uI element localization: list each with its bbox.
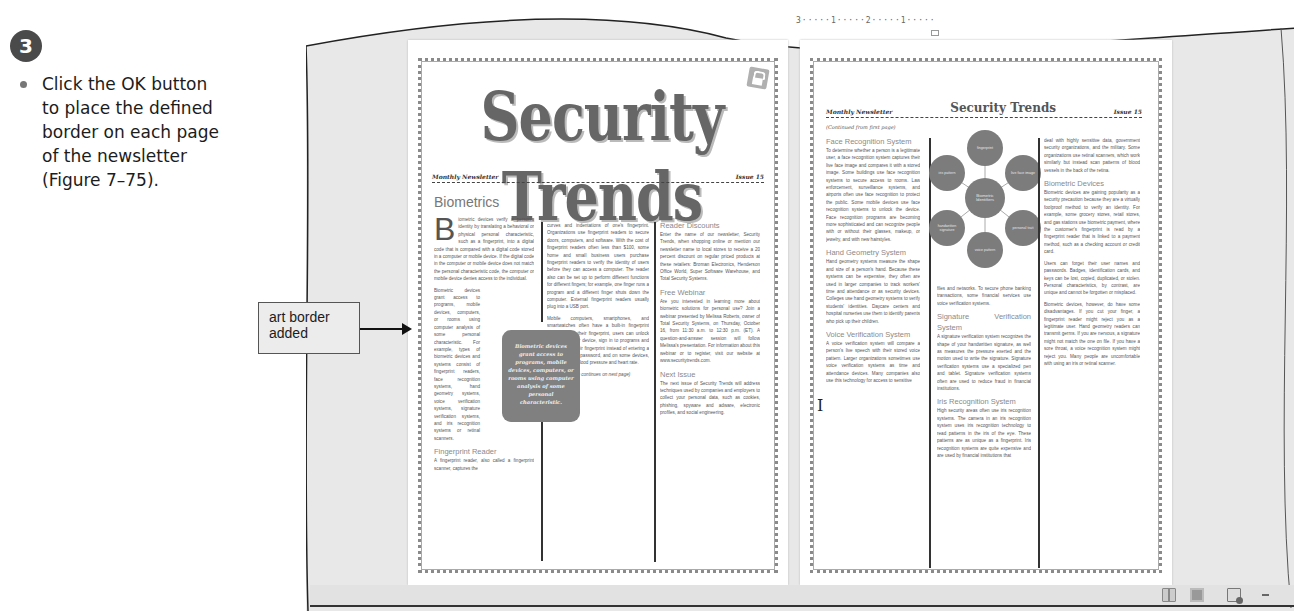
page2-header-bar: Monthly Newsletter Security Trends Issue… (826, 101, 1142, 118)
horizontal-ruler[interactable]: 3·····1·····2·····1····· (796, 16, 936, 25)
continued-note: (Continued from first page) (826, 124, 896, 130)
callout-arrow (360, 328, 410, 330)
bullet-icon (20, 81, 27, 88)
page2-column-1: Face Recognition System To determine whe… (826, 132, 920, 577)
web-layout-icon[interactable] (1227, 588, 1241, 602)
newsletter-label: Monthly Newsletter (826, 108, 892, 115)
heading-voice-verification: Voice Verification System (826, 329, 920, 340)
col1-paragraph: Hand geometry systems measure the shape … (826, 258, 920, 325)
col1-paragraph: A voice verification system will compare… (826, 340, 920, 384)
step-number-badge: 3 (10, 30, 42, 62)
col3-paragraph: Biometric devices, however, do have some… (1044, 301, 1140, 368)
col1-paragraph: To determine whether a person is a legit… (826, 147, 920, 243)
col3-paragraph: Biometric devices are gaining popularity… (1044, 189, 1140, 256)
text-cursor-icon: I (817, 396, 823, 415)
col1-paragraph: A fingerprint reader, also called a fing… (434, 457, 534, 472)
status-bar (310, 585, 1294, 607)
page2-column-2: files and networks. To secure phone bank… (937, 285, 1031, 575)
col2-paragraph: A signature verification system recogniz… (937, 333, 1031, 392)
smartart-node[interactable]: iris pattern (929, 155, 965, 191)
newsletter-label: Monthly Newsletter (432, 173, 498, 180)
col2-paragraph: curves and indentations of one's fingerp… (547, 222, 649, 311)
col3-paragraph: Users can forget their user names and pa… (1044, 260, 1140, 297)
column-rule (541, 411, 543, 561)
smartart-node[interactable]: voice pattern (967, 232, 1003, 268)
smartart-center-node[interactable]: Biometric Identifiers (965, 178, 1005, 218)
page2-column-3: deal with highly sensitive data, governm… (1044, 137, 1140, 457)
heading-reader-discounts: Reader Discounts (660, 220, 760, 231)
column-rule (929, 138, 931, 568)
issue-label: Issue 15 (1114, 108, 1142, 115)
heading-signature-verification: Signature Verification System (937, 311, 1031, 333)
column-rule (541, 222, 543, 322)
heading-next-issue: Next Issue (660, 369, 760, 380)
ruler-indent-marker[interactable] (931, 30, 939, 36)
header-title: Security Trends (950, 101, 1056, 115)
col3-paragraph: The next issue of Security Trends will a… (660, 380, 760, 417)
read-mode-icon[interactable] (1162, 588, 1176, 602)
col3-paragraph: Are you interested in learning more abou… (660, 298, 760, 365)
callout-art-border-added: art border added (258, 302, 360, 354)
smartart-node[interactable]: fingerprint (967, 130, 1003, 166)
heading-fingerprint-reader: Fingerprint Reader (434, 446, 534, 457)
heading-biometric-devices: Biometric Devices (1044, 178, 1140, 189)
instruction-text-block: Click the OK button to place the defined… (20, 72, 220, 192)
issue-label: Issue 15 (736, 173, 764, 180)
heading-hand-geometry: Hand Geometry System (826, 247, 920, 258)
smartart-graphic[interactable]: fingerprint iris pattern live face image… (933, 128, 1037, 268)
column-rule (1038, 138, 1040, 568)
print-layout-icon[interactable] (1190, 588, 1204, 602)
lock-icon (746, 66, 769, 89)
page1-issue-bar: Monthly Newsletter Issue 15 (432, 173, 764, 183)
col3-paragraph: deal with highly sensitive data, governm… (1044, 137, 1140, 174)
smartart-node[interactable]: live face image (1005, 155, 1041, 191)
col2-paragraph: High security areas often use iris recog… (937, 407, 1031, 459)
heading-face-recognition: Face Recognition System (826, 136, 920, 147)
smartart-node[interactable]: personal trait (1005, 210, 1041, 246)
heading-free-webinar: Free Webinar (660, 287, 760, 298)
col2-paragraph: files and networks. To secure phone bank… (937, 285, 1031, 307)
drop-cap: B (434, 216, 455, 242)
col3-paragraph: Enter the name of our newsletter, Securi… (660, 231, 760, 283)
pull-quote[interactable]: Biometric devices grant access to progra… (502, 330, 580, 422)
section-title-biometrics: Biometrics (434, 194, 499, 210)
zoom-out-icon[interactable] (1262, 594, 1269, 596)
smartart-node[interactable]: handwritten signature (929, 210, 965, 246)
heading-iris-recognition: Iris Recognition System (937, 396, 1031, 407)
col1-paragraph: Biometric devices grant access to progra… (434, 287, 480, 443)
masthead-title: Security Trends (432, 76, 772, 236)
instruction-text: Click the OK button to place the defined… (20, 72, 220, 192)
column-rule (654, 222, 656, 562)
page1-column-3: Reader Discounts Enter the name of our n… (660, 216, 760, 546)
